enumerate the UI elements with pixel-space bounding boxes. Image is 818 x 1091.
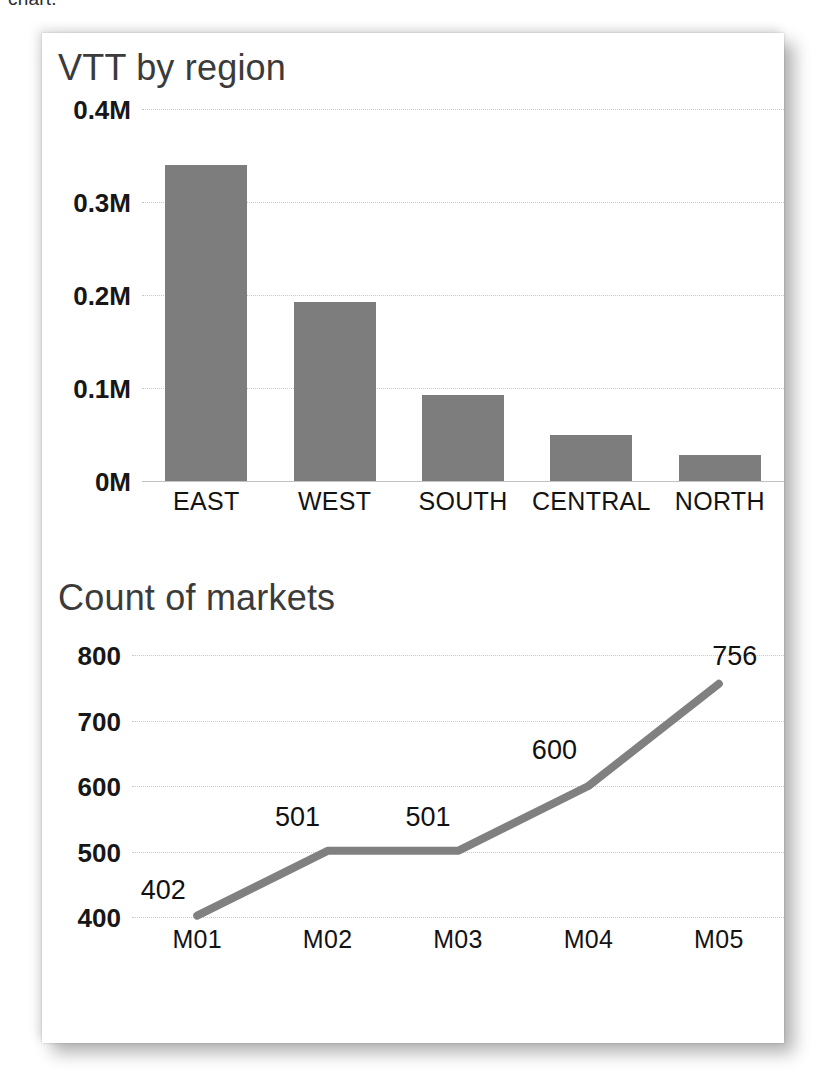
line-chart: Count of markets 800 700 600 500 400 402… [42,577,784,1043]
bar-chart: VTT by region 0.4M 0.3M 0.2M 0.1M 0M [42,47,784,577]
bar-slot [656,109,784,481]
bar-ytick-label: 0.1M [73,374,131,405]
bar-slot [142,109,270,481]
line-point-label-m02: 501 [275,801,320,832]
line-ytick-label: 700 [78,706,121,737]
line-xlabel-m02: M02 [262,925,392,954]
bar-ytick-label: 0M [95,467,131,498]
line-xlabel-m03: M03 [393,925,523,954]
bar-slot [399,109,527,481]
line-chart-title: Count of markets [58,577,335,619]
line-ytick-label: 400 [78,903,121,934]
line-ytick-label: 800 [78,641,121,672]
bar-east[interactable] [165,165,247,481]
bar-xlabel-west: WEST [270,487,398,516]
page-body-text-cutoff: chart. [8,0,57,10]
bar-series [142,109,784,481]
line-axis-baseline: 400 [132,917,784,918]
line-series[interactable] [132,655,784,917]
bar-ytick-label: 0.4M [73,95,131,126]
bar-axis-baseline: 0M [142,481,784,482]
bar-north[interactable] [679,455,761,481]
line-point-label-m01: 402 [141,874,186,905]
bar-slot [527,109,655,481]
bar-south[interactable] [422,395,504,481]
figure-card: VTT by region 0.4M 0.3M 0.2M 0.1M 0M [42,33,784,1043]
bar-central[interactable] [550,435,632,481]
bar-ytick-label: 0.2M [73,281,131,312]
line-chart-plot-area: 800 700 600 500 400 402501501600756 [132,655,784,917]
line-ytick-label: 600 [78,772,121,803]
bar-xlabel-east: EAST [142,487,270,516]
bar-chart-title: VTT by region [58,47,286,89]
bar-xlabel-south: SOUTH [399,487,527,516]
line-series-path[interactable] [197,684,719,916]
bar-west[interactable] [294,302,376,481]
line-chart-x-axis-labels: M01 M02 M03 M04 M05 [132,925,784,954]
line-ytick-label: 500 [78,837,121,868]
line-point-label-m04: 600 [532,735,577,766]
line-point-label-m03: 501 [405,801,450,832]
bar-chart-plot-area: 0.4M 0.3M 0.2M 0.1M 0M [142,109,784,481]
bar-ytick-label: 0.3M [73,188,131,219]
bar-xlabel-central: CENTRAL [527,487,655,516]
bar-slot [270,109,398,481]
line-xlabel-m01: M01 [132,925,262,954]
line-xlabel-m04: M04 [523,925,653,954]
line-point-label-m05: 756 [712,640,757,671]
line-xlabel-m05: M05 [654,925,784,954]
bar-xlabel-north: NORTH [656,487,784,516]
bar-chart-x-axis-labels: EAST WEST SOUTH CENTRAL NORTH [142,487,784,516]
